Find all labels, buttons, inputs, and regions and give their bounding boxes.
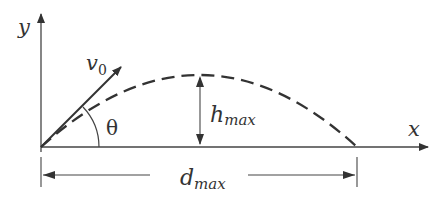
angle-label: θ	[106, 116, 118, 140]
height-label: hmax	[210, 102, 256, 129]
x-axis-label: x	[408, 117, 420, 141]
height-dimension	[196, 76, 204, 145]
distance-label: dmax	[180, 165, 226, 193]
velocity-label: v0	[86, 51, 107, 78]
projectile-diagram: y x v0 θ hmax dmax	[0, 0, 447, 209]
y-axis-label: y	[17, 15, 31, 39]
angle-arc	[83, 107, 99, 147]
